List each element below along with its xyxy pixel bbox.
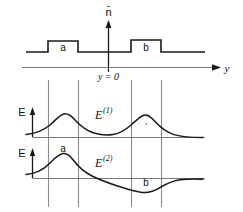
step-profile-path [26,40,205,52]
top-region-b-label: b [143,42,149,53]
E1-curve [26,114,203,138]
E1-axis-arrowhead [30,107,35,115]
E2-curve [26,153,203,192]
E1-curve-label: E (1) [94,106,113,122]
E1-lobe-tick-mark: ’ [145,121,147,131]
E2-axis-arrowhead [30,148,35,156]
index-profile-panel [22,20,221,72]
E1-panel [26,107,205,138]
lower-region-a-label: a [60,143,66,154]
lower-region-b-label: b [143,177,149,188]
E1-axis-label: E [18,106,25,118]
y-zero-label: y = 0 [97,71,119,82]
E1-curve-label-base: E [94,108,103,122]
figure-canvas: n̄ a b y y = 0 E E E (1) E (2) a b ’ [0,0,243,212]
E1-curve-label-superscript: (1) [103,106,113,115]
E2-curve-label-base: E [94,156,103,170]
E2-curve-label: E (2) [94,154,113,170]
E2-panel [26,148,205,192]
figure-container: n̄ a b y y = 0 E E E (1) E (2) a b ’ [0,0,243,212]
n-bar-label: n̄ [105,6,111,18]
E2-axis-label: E [18,147,25,159]
top-region-a-label: a [60,42,66,53]
n-bar-arrowhead [106,20,112,28]
E2-curve-label-superscript: (2) [103,154,113,163]
y-axis-arrowhead [212,64,221,71]
y-axis-label: y [224,62,230,74]
y-axis [22,64,221,71]
n-bar-axis-arrow [106,20,112,63]
